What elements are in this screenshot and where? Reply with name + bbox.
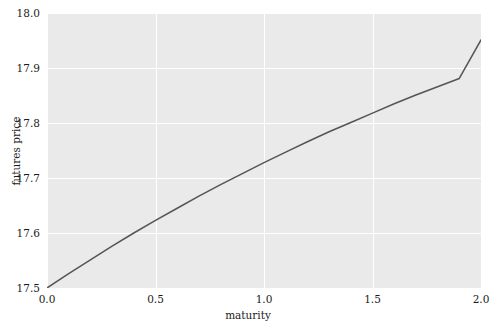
x-axis-tick-label: 1.5	[364, 294, 381, 305]
x-axis-title-text: maturity	[0, 309, 496, 321]
x-axis-tick-label: 0.5	[147, 294, 164, 305]
futures-price-chart: 17.517.617.717.817.918.0 0.00.51.01.52.0…	[0, 0, 496, 329]
y-axis-title-text: futures price	[10, 116, 22, 185]
x-axis-tick-label: 0.0	[39, 294, 56, 305]
y-axis-title: futures price	[8, 0, 24, 301]
x-axis-tick-labels: 0.00.51.01.52.0	[0, 0, 496, 329]
x-axis-tick-label: 1.0	[256, 294, 273, 305]
x-axis-tick-label: 2.0	[473, 294, 490, 305]
